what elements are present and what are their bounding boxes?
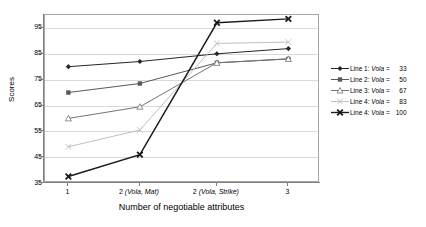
series-lines (45, 15, 320, 183)
legend-marker-icon (330, 85, 350, 96)
legend-marker-icon (330, 74, 350, 85)
data-point-marker (137, 104, 143, 110)
data-point-marker (337, 66, 342, 71)
y-tick-mark (39, 27, 43, 28)
data-point-marker (137, 59, 142, 64)
legend-marker-icon (330, 63, 350, 74)
x-tick-mark (139, 182, 140, 186)
y-tick-mark (39, 79, 43, 80)
x-tick-label: 3 (242, 188, 332, 196)
legend-item: Line 4: Vola = 83 (330, 96, 407, 107)
data-point-marker (338, 77, 342, 81)
legend-marker-icon (330, 107, 350, 118)
x-tick-mark (67, 182, 68, 186)
legend-marker-icon (330, 96, 350, 107)
data-point-marker (66, 90, 70, 94)
data-point-marker (286, 46, 291, 51)
chart-figure: Scores 35455565758595 12 (Vola, Mat)2 (V… (0, 0, 426, 227)
legend-item: Line 1: Vola = 33 (330, 63, 407, 74)
legend-label: Line 4: Vola = 100 (350, 108, 407, 117)
y-tick-mark (39, 130, 43, 131)
chart-legend: Line 1: Vola = 33Line 2: Vola = 50Line 3… (330, 63, 407, 118)
data-point-marker (214, 51, 219, 56)
plot-area (44, 14, 319, 182)
series-line (68, 49, 288, 67)
x-tick-mark (287, 182, 288, 186)
legend-label: Line 2: Vola = 50 (350, 75, 407, 84)
y-tick-mark (39, 105, 43, 106)
data-point-marker (138, 81, 142, 85)
x-axis-title: Number of negotiable attributes (44, 202, 319, 212)
data-point-marker (66, 64, 71, 69)
x-tick-mark (216, 182, 217, 186)
legend-label: Line 4: Vola = 83 (350, 97, 407, 106)
y-tick-mark (39, 53, 43, 54)
legend-item: Line 2: Vola = 50 (330, 74, 407, 85)
y-tick-mark (39, 182, 43, 183)
y-tick-mark (39, 156, 43, 157)
legend-item: Line 4: Vola = 100 (330, 107, 407, 118)
legend-label: Line 3: Vola = 67 (350, 86, 407, 95)
legend-item: Line 3: Vola = 67 (330, 85, 407, 96)
legend-label: Line 1: Vola = 33 (350, 64, 407, 73)
